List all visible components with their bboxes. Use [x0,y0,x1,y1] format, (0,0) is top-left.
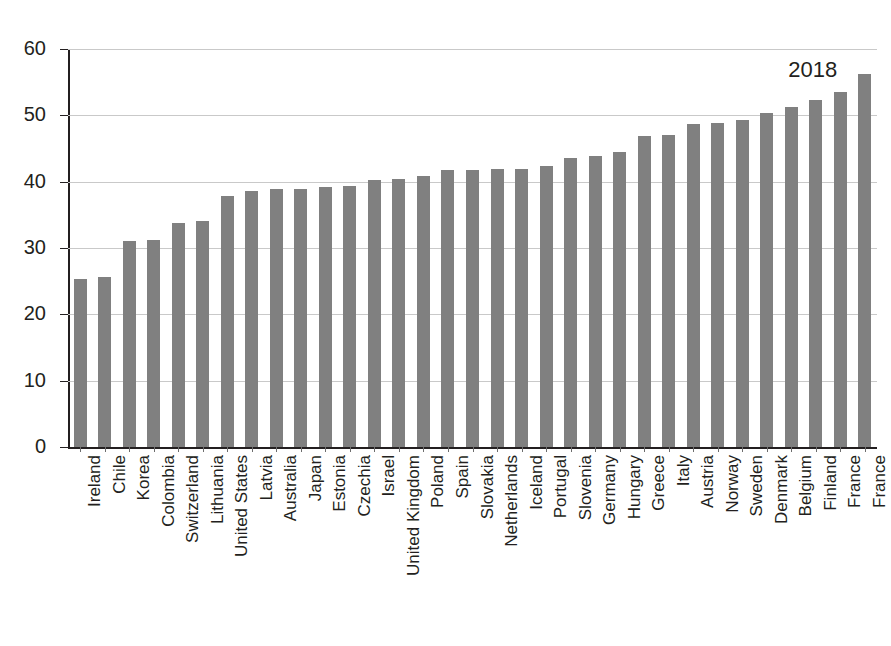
bar[interactable] [515,169,528,447]
x-tick-mark [276,447,277,452]
bar[interactable] [368,180,381,447]
bar[interactable] [491,169,504,447]
x-axis-label: Spain [454,455,471,498]
x-tick-mark [497,447,498,452]
bar[interactable] [294,189,307,447]
x-axis-label: Norway [724,455,741,513]
x-tick-mark [816,447,817,452]
x-tick-mark [522,447,523,452]
x-axis-label: Italy [675,455,692,486]
x-tick-mark [546,447,547,452]
bar[interactable] [785,107,798,447]
x-tick-mark [791,447,792,452]
bar[interactable] [540,166,553,447]
bar[interactable] [466,170,479,447]
x-tick-mark [178,447,179,452]
x-tick-mark [80,447,81,452]
bar[interactable] [687,124,700,447]
x-tick-mark [423,447,424,452]
gridline [68,49,877,50]
x-axis-label: Netherlands [503,455,520,547]
bar[interactable] [245,191,258,447]
bar[interactable] [441,170,454,447]
y-tick-label: 10 [24,370,46,390]
bar[interactable] [270,189,283,447]
x-axis-label: Slovenia [577,455,594,520]
bar[interactable] [74,279,87,447]
x-tick-mark [767,447,768,452]
x-tick-mark [399,447,400,452]
x-axis-label: Australia [282,455,299,521]
x-axis-label: Greece [650,455,667,511]
x-tick-mark [571,447,572,452]
y-tick-label: 40 [24,171,46,191]
x-tick-mark [669,447,670,452]
x-axis-label: Korea [135,455,152,500]
x-tick-mark [227,447,228,452]
bar[interactable] [221,196,234,447]
x-tick-mark [374,447,375,452]
x-tick-mark [350,447,351,452]
plot-area [68,49,877,447]
x-axis-label: Czechia [356,455,373,516]
bar[interactable] [662,135,675,447]
bar[interactable] [564,158,577,447]
y-tick-mark [60,115,68,116]
x-axis-label: Japan [307,455,324,501]
bar[interactable] [147,240,160,447]
y-tick-mark [60,381,68,382]
x-axis-label: Iceland [528,455,545,510]
x-tick-mark [693,447,694,452]
bar[interactable] [98,277,111,447]
y-axis: 0102030405060 [0,0,68,646]
bar[interactable] [343,186,356,447]
x-axis-label: United States [233,455,250,557]
x-tick-mark [595,447,596,452]
bar[interactable] [172,223,185,447]
x-tick-mark [325,447,326,452]
y-tick-mark [60,314,68,315]
bar[interactable] [417,176,430,447]
x-tick-mark [473,447,474,452]
year-annotation: 2018 [788,59,837,81]
x-tick-mark [448,447,449,452]
y-tick-label: 60 [24,38,46,58]
x-axis-label: Estonia [331,455,348,512]
bar[interactable] [613,152,626,447]
x-axis-label: Latvia [258,455,275,500]
x-axis-label: France [871,455,888,508]
x-axis-label: Denmark [773,455,790,524]
x-axis-label: Germany [601,455,618,525]
bar[interactable] [392,179,405,447]
y-tick-mark [60,447,68,448]
bar[interactable] [123,241,136,447]
x-axis-label: Poland [429,455,446,508]
y-tick-mark [60,49,68,50]
x-tick-mark [644,447,645,452]
bar[interactable] [589,156,602,447]
x-tick-mark [620,447,621,452]
bar[interactable] [196,221,209,447]
bar[interactable] [736,120,749,447]
x-axis-label: Finland [822,455,839,511]
y-tick-mark [60,182,68,183]
bar[interactable] [319,187,332,447]
bar[interactable] [809,100,822,447]
x-axis-label: Slovakia [479,455,496,519]
x-tick-mark [718,447,719,452]
x-axis-label: United Kingdom [405,455,422,576]
x-tick-mark [301,447,302,452]
bar[interactable] [760,113,773,447]
x-axis-label: Switzerland [184,455,201,543]
y-tick-mark [60,248,68,249]
x-axis-label: Israel [380,455,397,497]
x-axis-label: Chile [111,455,128,494]
bar[interactable] [858,74,871,447]
x-axis-label: France [846,455,863,508]
bar[interactable] [711,123,724,447]
x-tick-mark [742,447,743,452]
y-tick-label: 30 [24,237,46,257]
y-tick-label: 0 [35,436,46,456]
bar[interactable] [638,136,651,447]
bar[interactable] [834,92,847,447]
